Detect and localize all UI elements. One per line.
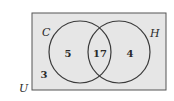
universe-label: U [19,82,29,95]
set-h-label: H [149,27,160,40]
outside-count: 3 [41,69,48,80]
h-only-count: 4 [127,48,134,59]
c-only-count: 5 [65,48,72,59]
intersection-count: 17 [93,48,107,59]
set-c-label: C [42,26,51,39]
venn-diagram: C H U 5 17 4 3 [0,0,174,101]
